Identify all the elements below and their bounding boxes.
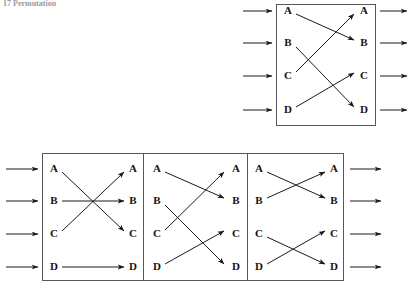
factor-2-right-label-a: A bbox=[232, 162, 240, 174]
factor-2-map-arrow-d-to-c bbox=[165, 231, 224, 264]
factor-3-left-label-d: D bbox=[255, 260, 263, 272]
diagram-factor-group: A B C D A B C D A B C D bbox=[6, 154, 381, 281]
factor-3-map-arrow-c-to-d bbox=[267, 237, 325, 264]
composite-right-label-a: A bbox=[360, 4, 368, 16]
factor-2-left-label-a: A bbox=[153, 162, 161, 174]
composite-map-arrow-c-to-a bbox=[296, 14, 354, 72]
composite-right-label-c: C bbox=[360, 69, 368, 81]
composite-map-arrow-a-to-b bbox=[296, 14, 354, 40]
factor-group-input-arrows bbox=[6, 169, 38, 267]
diagram-composite-permutation: A B C D A B C D bbox=[243, 4, 407, 126]
factor-3-left-label-c: C bbox=[255, 227, 263, 239]
factor-3-right-label-b: B bbox=[330, 194, 338, 206]
diagram-factor-3: A B C D A B C D bbox=[255, 162, 338, 272]
factor-2-right-label-c: C bbox=[232, 227, 240, 239]
factor-3-map-arrow-d-to-c bbox=[267, 231, 325, 264]
factor-2-map-arrow-a-to-b bbox=[165, 172, 224, 198]
composite-left-label-d: D bbox=[284, 103, 292, 115]
composite-output-arrows bbox=[380, 11, 407, 110]
diagram-factor-1: A B C D A B C D bbox=[50, 162, 137, 272]
diagram-factor-2: A B C D A B C D bbox=[153, 162, 240, 272]
factor-2-left-label-c: C bbox=[153, 227, 161, 239]
factor-3-left-label-a: A bbox=[255, 162, 263, 174]
composite-map-arrow-d-to-c bbox=[296, 73, 354, 107]
composite-map-arrow-b-to-d bbox=[296, 47, 354, 107]
factor-3-right-label-a: A bbox=[330, 162, 338, 174]
factor-2-right-label-b: B bbox=[232, 194, 240, 206]
composite-left-label-a: A bbox=[284, 4, 292, 16]
composite-input-arrows bbox=[243, 11, 272, 110]
factor-2-map-arrow-b-to-d bbox=[165, 205, 224, 264]
factor-1-left-label-a: A bbox=[50, 162, 58, 174]
factor-1-right-label-b: B bbox=[129, 194, 137, 206]
factor-3-left-label-b: B bbox=[255, 194, 263, 206]
factor-group-box bbox=[43, 154, 344, 281]
factor-group-output-arrows bbox=[350, 169, 381, 267]
factor-1-left-label-b: B bbox=[50, 194, 58, 206]
figure-caption: 17 Permutation bbox=[3, 0, 57, 8]
composite-left-label-c: C bbox=[284, 69, 292, 81]
factor-2-left-label-b: B bbox=[153, 194, 161, 206]
factor-1-right-label-c: C bbox=[129, 227, 137, 239]
factor-1-left-label-c: C bbox=[50, 227, 58, 239]
composite-right-label-b: B bbox=[360, 36, 368, 48]
composite-left-label-b: B bbox=[284, 36, 292, 48]
factor-2-map-arrow-c-to-a bbox=[165, 172, 224, 230]
permutation-figure: 17 Permutation A B C D A bbox=[0, 0, 409, 286]
permutation-diagram-canvas: 17 Permutation A B C D A bbox=[0, 0, 409, 286]
composite-right-label-d: D bbox=[360, 103, 368, 115]
factor-1-right-label-d: D bbox=[129, 260, 137, 272]
factor-1-right-label-a: A bbox=[129, 162, 137, 174]
factor-2-left-label-d: D bbox=[153, 260, 161, 272]
factor-1-left-label-d: D bbox=[50, 260, 58, 272]
factor-3-right-label-d: D bbox=[330, 260, 338, 272]
factor-2-right-label-d: D bbox=[232, 260, 240, 272]
factor-3-right-label-c: C bbox=[330, 227, 338, 239]
